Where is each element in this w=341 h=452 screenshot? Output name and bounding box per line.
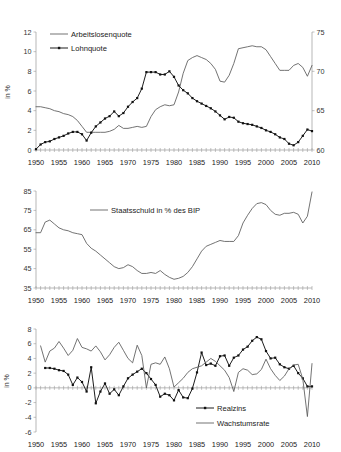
- series-marker: [159, 73, 161, 75]
- series-marker: [219, 114, 221, 116]
- y-axis-tick-label: 8: [28, 67, 32, 76]
- series-marker: [44, 367, 46, 369]
- series-marker: [260, 127, 262, 129]
- x-axis-tick-label: 1970: [120, 296, 136, 305]
- series-marker: [224, 354, 226, 356]
- series-marker: [311, 130, 313, 132]
- chart-3-svg: -6-4-20246819501955196019651970197519801…: [0, 315, 341, 452]
- y-axis-tick-label: 0: [28, 146, 32, 155]
- series-marker: [191, 387, 193, 389]
- x-axis-tick-label: 2005: [281, 440, 297, 449]
- x-axis-tick-label: 1950: [28, 440, 44, 449]
- x-axis-tick-label: 1975: [143, 158, 159, 167]
- series-marker: [81, 133, 83, 135]
- series-marker: [109, 115, 111, 117]
- series-marker: [187, 92, 189, 94]
- legend-label-0[interactable]: Realzins: [217, 404, 246, 413]
- series-marker: [141, 368, 143, 370]
- series-marker: [159, 396, 161, 398]
- series-marker: [136, 97, 138, 99]
- y-axis-tick-label: 10: [24, 47, 32, 56]
- series-marker: [205, 105, 207, 107]
- series-marker: [237, 354, 239, 356]
- series-marker: [150, 378, 152, 380]
- series-marker: [279, 136, 281, 138]
- series-marker: [113, 388, 115, 390]
- series-line-lohnquote: [36, 71, 312, 149]
- series-marker: [182, 396, 184, 398]
- series-marker: [90, 132, 92, 134]
- series-line-arbeitslosenquote: [36, 46, 312, 133]
- series-marker: [228, 116, 230, 118]
- series-marker: [311, 385, 313, 387]
- series-marker: [132, 374, 134, 376]
- series-marker: [256, 125, 258, 127]
- series-marker: [168, 394, 170, 396]
- series-marker: [297, 372, 299, 374]
- legend-label-0[interactable]: Staatsschuld in % des BIP: [111, 206, 200, 215]
- x-axis-tick-label: 1960: [74, 296, 90, 305]
- x-axis-tick-label: 1985: [189, 296, 205, 305]
- x-axis-tick-label: 2010: [304, 440, 320, 449]
- series-marker: [201, 351, 203, 353]
- series-marker: [40, 143, 42, 145]
- y-axis-tick-label: 65: [24, 225, 32, 234]
- series-marker: [63, 370, 65, 372]
- series-marker: [182, 89, 184, 91]
- series-marker: [150, 71, 152, 73]
- series-marker: [145, 372, 147, 374]
- legend-label-1[interactable]: Wachstumsrate: [217, 419, 269, 428]
- legend-label-1[interactable]: Lohnquote: [71, 44, 107, 53]
- series-marker: [191, 97, 193, 99]
- series-marker: [81, 381, 83, 383]
- x-axis-tick-label: 1965: [97, 158, 113, 167]
- legend-label-0[interactable]: Arbeitslosenquote: [71, 30, 132, 39]
- series-marker: [95, 402, 97, 404]
- x-axis-tick-label: 1980: [166, 296, 182, 305]
- series-marker: [265, 350, 267, 352]
- series-marker: [224, 118, 226, 120]
- x-axis-tick-label: 2010: [304, 296, 320, 305]
- y-axis-tick-label: 4: [28, 354, 32, 363]
- series-marker: [251, 340, 253, 342]
- x-axis-tick-label: 1980: [166, 440, 182, 449]
- x-axis-tick-label: 2000: [258, 440, 274, 449]
- series-marker: [72, 131, 74, 133]
- y-axis-title: in %: [4, 85, 11, 99]
- series-marker: [122, 385, 124, 387]
- chart-2-canvas: 3545556575851950195519601965197019751980…: [0, 175, 341, 315]
- series-marker: [242, 349, 244, 351]
- series-marker: [178, 84, 180, 86]
- series-marker: [127, 377, 129, 379]
- series-marker: [196, 371, 198, 373]
- y-axis-tick-label: -2: [25, 398, 31, 407]
- series-marker: [58, 369, 60, 371]
- x-axis-tick-label: 1975: [143, 440, 159, 449]
- series-marker: [86, 390, 88, 392]
- x-axis-tick-label: 1950: [28, 158, 44, 167]
- chart-1-canvas: 0246810126065707519501955196019651970197…: [0, 0, 341, 175]
- series-marker: [53, 138, 55, 140]
- series-marker: [72, 384, 74, 386]
- y-axis-tick-label: 8: [28, 325, 32, 334]
- series-marker: [53, 368, 55, 370]
- x-axis-tick-label: 2005: [281, 158, 297, 167]
- chart-panel-3: -6-4-20246819501955196019651970197519801…: [0, 315, 341, 452]
- y2-axis-tick-label: 70: [317, 67, 325, 76]
- series-marker: [210, 362, 212, 364]
- x-axis-tick-label: 2000: [258, 158, 274, 167]
- series-marker: [302, 135, 304, 137]
- series-marker: [35, 148, 37, 150]
- x-axis-tick-label: 1995: [235, 158, 251, 167]
- series-marker: [270, 131, 272, 133]
- x-axis-tick-label: 1965: [97, 440, 113, 449]
- x-axis-tick-label: 2010: [304, 158, 320, 167]
- series-marker: [214, 110, 216, 112]
- series-marker: [297, 141, 299, 143]
- series-marker: [173, 399, 175, 401]
- series-marker: [145, 71, 147, 73]
- series-marker: [49, 367, 51, 369]
- y-axis-title: in %: [3, 374, 10, 388]
- x-axis-tick-label: 1995: [235, 296, 251, 305]
- series-marker: [265, 129, 267, 131]
